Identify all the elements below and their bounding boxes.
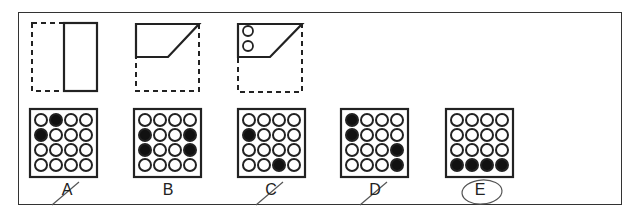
empty-hole-icon	[481, 114, 493, 126]
empty-hole-icon	[376, 159, 388, 171]
empty-hole-icon	[169, 144, 181, 156]
empty-hole-icon	[258, 159, 270, 171]
empty-hole-icon	[451, 114, 463, 126]
empty-hole-icon	[496, 144, 508, 156]
empty-hole-icon	[391, 129, 403, 141]
empty-hole-icon	[80, 159, 92, 171]
empty-hole-icon	[376, 129, 388, 141]
empty-hole-icon	[496, 129, 508, 141]
option-label-c[interactable]: C	[256, 181, 286, 199]
empty-hole-icon	[361, 144, 373, 156]
filled-hole-icon	[243, 129, 255, 141]
empty-hole-icon	[361, 114, 373, 126]
empty-hole-icon	[451, 129, 463, 141]
empty-hole-icon	[496, 114, 508, 126]
punched-hole-icon	[243, 41, 253, 51]
empty-hole-icon	[35, 159, 47, 171]
filled-hole-icon	[50, 114, 62, 126]
empty-hole-icon	[50, 159, 62, 171]
fold-step-2-folded-paper	[136, 24, 199, 57]
empty-hole-icon	[184, 114, 196, 126]
punched-hole-icon	[243, 26, 253, 36]
empty-hole-icon	[346, 159, 358, 171]
empty-hole-icon	[288, 129, 300, 141]
empty-hole-icon	[154, 129, 166, 141]
filled-hole-icon	[451, 159, 463, 171]
empty-hole-icon	[65, 114, 77, 126]
empty-hole-icon	[154, 144, 166, 156]
empty-hole-icon	[466, 144, 478, 156]
empty-hole-icon	[35, 144, 47, 156]
option-label-e[interactable]: E	[465, 181, 495, 199]
empty-hole-icon	[481, 129, 493, 141]
empty-hole-icon	[376, 144, 388, 156]
empty-hole-icon	[139, 159, 151, 171]
empty-hole-icon	[481, 144, 493, 156]
option-label-a[interactable]: A	[52, 181, 82, 199]
empty-hole-icon	[65, 129, 77, 141]
filled-hole-icon	[496, 159, 508, 171]
empty-hole-icon	[466, 114, 478, 126]
empty-hole-icon	[243, 114, 255, 126]
filled-hole-icon	[273, 159, 285, 171]
empty-hole-icon	[80, 114, 92, 126]
empty-hole-icon	[466, 129, 478, 141]
empty-hole-icon	[361, 129, 373, 141]
empty-hole-icon	[361, 159, 373, 171]
empty-hole-icon	[258, 144, 270, 156]
empty-hole-icon	[243, 159, 255, 171]
puzzle-figures	[0, 0, 635, 216]
empty-hole-icon	[80, 129, 92, 141]
empty-hole-icon	[184, 159, 196, 171]
empty-hole-icon	[346, 144, 358, 156]
filled-hole-icon	[184, 129, 196, 141]
filled-hole-icon	[391, 144, 403, 156]
fold-step-1-folded-paper	[64, 23, 97, 91]
filled-hole-icon	[466, 159, 478, 171]
empty-hole-icon	[169, 114, 181, 126]
empty-hole-icon	[50, 129, 62, 141]
empty-hole-icon	[65, 144, 77, 156]
empty-hole-icon	[288, 114, 300, 126]
empty-hole-icon	[139, 114, 151, 126]
empty-hole-icon	[35, 114, 47, 126]
option-label-d[interactable]: D	[360, 181, 390, 199]
filled-hole-icon	[184, 144, 196, 156]
empty-hole-icon	[50, 144, 62, 156]
empty-hole-icon	[376, 114, 388, 126]
empty-hole-icon	[391, 114, 403, 126]
puzzle-canvas: A B C D E	[0, 0, 635, 216]
option-label-b[interactable]: B	[153, 181, 183, 199]
empty-hole-icon	[154, 159, 166, 171]
filled-hole-icon	[481, 159, 493, 171]
empty-hole-icon	[273, 114, 285, 126]
filled-hole-icon	[139, 129, 151, 141]
empty-hole-icon	[273, 129, 285, 141]
empty-hole-icon	[243, 144, 255, 156]
empty-hole-icon	[451, 144, 463, 156]
empty-hole-icon	[65, 159, 77, 171]
empty-hole-icon	[258, 129, 270, 141]
empty-hole-icon	[80, 144, 92, 156]
empty-hole-icon	[169, 129, 181, 141]
filled-hole-icon	[346, 114, 358, 126]
empty-hole-icon	[288, 144, 300, 156]
filled-hole-icon	[139, 144, 151, 156]
filled-hole-icon	[346, 129, 358, 141]
filled-hole-icon	[35, 129, 47, 141]
empty-hole-icon	[258, 114, 270, 126]
filled-hole-icon	[391, 159, 403, 171]
empty-hole-icon	[169, 159, 181, 171]
empty-hole-icon	[273, 144, 285, 156]
empty-hole-icon	[154, 114, 166, 126]
empty-hole-icon	[288, 159, 300, 171]
